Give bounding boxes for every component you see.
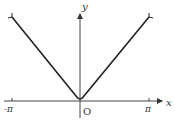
y-label: y (81, 1, 88, 12)
origin-label: O (83, 106, 91, 117)
curve-end-left (8, 13, 12, 18)
curve-end-right (149, 13, 153, 18)
graph: y x O -π π (0, 0, 175, 122)
tick-label-pi: π (144, 104, 152, 114)
x-label: x (166, 97, 172, 108)
tick-label-neg-pi: -π (4, 104, 14, 114)
